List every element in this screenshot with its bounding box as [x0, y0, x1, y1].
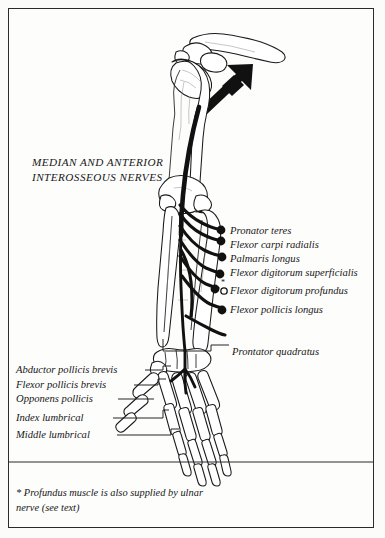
- label-fds: Flexor digitorum superficialis: [230, 267, 358, 278]
- label-flexor-pollicis-brevis: Flexor pollicis brevis: [16, 379, 106, 390]
- label-fdp: Flexor digitorum profundus: [230, 285, 348, 296]
- label-index-lumbrical: Index lumbrical: [16, 412, 83, 423]
- anatomy-plate: .bone { fill:#ffffff; stroke:#1a1a1a; st…: [0, 0, 385, 538]
- label-pronator-teres: Pronator teres: [230, 225, 291, 236]
- page-title-line-2: INTEROSSEOUS NERVES: [32, 170, 163, 185]
- label-middle-lumbrical: Middle lumbrical: [16, 429, 90, 440]
- label-abductor-pollicis-brevis: Abductor pollicis brevis: [16, 364, 117, 375]
- footnote-line-1: * Profundus muscle is also supplied by u…: [16, 485, 203, 500]
- fdp-asterisk: *: [221, 278, 225, 287]
- label-palmaris-longus: Palmaris longus: [230, 253, 300, 264]
- branch-dot-flexor-carpi-radialis: [217, 237, 226, 246]
- footnote-line-2: nerve (see text): [16, 500, 79, 515]
- branch-dot-flexor-pollicis-longus: [218, 306, 227, 315]
- page-title-line-1: MEDIAN AND ANTERIOR: [32, 155, 163, 170]
- branch-dot-fdp-primary: [211, 285, 220, 294]
- label-opponens-pollicis: Opponens pollicis: [16, 393, 93, 404]
- label-flexor-carpi-radialis: Flexor carpi radialis: [230, 239, 319, 250]
- branch-dot-pronator-teres: [217, 226, 226, 235]
- branch-dot-fdp-ulnar: [221, 288, 227, 294]
- branch-dot-palmaris-longus: [218, 253, 227, 262]
- hand-skeleton: [116, 348, 231, 486]
- label-flexor-pollicis-longus: Flexor pollicis longus: [230, 304, 323, 315]
- page-title: MEDIAN AND ANTERIOR INTEROSSEOUS NERVES: [32, 155, 163, 184]
- label-prontator-quadratus: Prontator quadratus: [232, 346, 319, 357]
- leader-index-lumbrical: [113, 410, 169, 418]
